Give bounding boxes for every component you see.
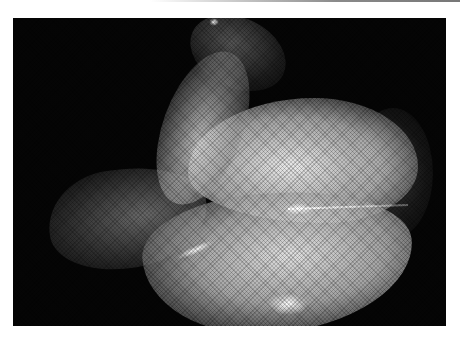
highlight	[283, 203, 313, 215]
photograph: Photograph of a folded translucent mesh …	[13, 18, 446, 326]
highlight	[209, 18, 219, 26]
highlight	[268, 293, 308, 315]
page-edge-line	[150, 0, 460, 2]
